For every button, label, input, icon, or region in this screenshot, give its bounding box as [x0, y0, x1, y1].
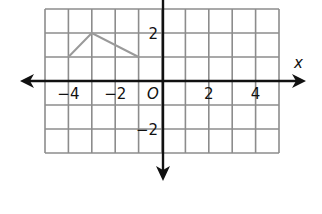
x-tick-label: 2: [204, 85, 214, 103]
origin-label: O: [147, 85, 159, 103]
coordinate-plane: −4−2242−2 x O: [0, 0, 322, 214]
x-tick-label: −4: [57, 85, 79, 103]
x-axis-label: x: [293, 54, 303, 72]
polyline-series: [68, 33, 138, 57]
y-tick-label: −2: [136, 121, 158, 139]
y-tick-label: 2: [148, 25, 158, 43]
x-tick-label: −2: [104, 85, 126, 103]
x-tick-label: 4: [251, 85, 261, 103]
series-line: [68, 33, 138, 57]
